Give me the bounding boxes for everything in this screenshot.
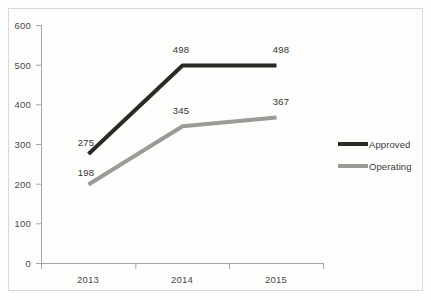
y-axis-label-300: 300 xyxy=(5,139,31,150)
data-label-operating-2013: 198 xyxy=(69,167,103,178)
y-axis-label-500: 500 xyxy=(5,60,31,71)
legend-swatch-operating-icon xyxy=(338,164,368,168)
x-axis-label-2015: 2015 xyxy=(246,274,306,285)
y-axis-label-600: 600 xyxy=(5,20,31,31)
data-label-approved-2014: 498 xyxy=(164,44,198,55)
legend-item-operating[interactable]: Operating xyxy=(338,155,424,177)
data-label-operating-2015: 367 xyxy=(264,96,298,107)
chart-legend: Approved Operating xyxy=(338,133,424,177)
y-axis-label-200: 200 xyxy=(5,179,31,190)
data-label-approved-2013: 275 xyxy=(69,137,103,148)
data-label-approved-2015: 498 xyxy=(264,44,298,55)
legend-item-approved[interactable]: Approved xyxy=(338,133,424,155)
y-axis-label-0: 0 xyxy=(5,258,31,269)
x-axis-label-2013: 2013 xyxy=(58,274,118,285)
legend-label-approved: Approved xyxy=(369,139,410,150)
legend-label-operating: Operating xyxy=(369,161,412,172)
y-axis-label-400: 400 xyxy=(5,99,31,110)
data-label-operating-2014: 345 xyxy=(164,105,198,116)
y-axis-label-100: 100 xyxy=(5,218,31,229)
legend-swatch-approved-icon xyxy=(338,142,368,146)
line-chart: 600 500 400 300 200 100 0 2013 2014 2015… xyxy=(0,0,431,300)
x-axis-label-2014: 2014 xyxy=(152,274,212,285)
